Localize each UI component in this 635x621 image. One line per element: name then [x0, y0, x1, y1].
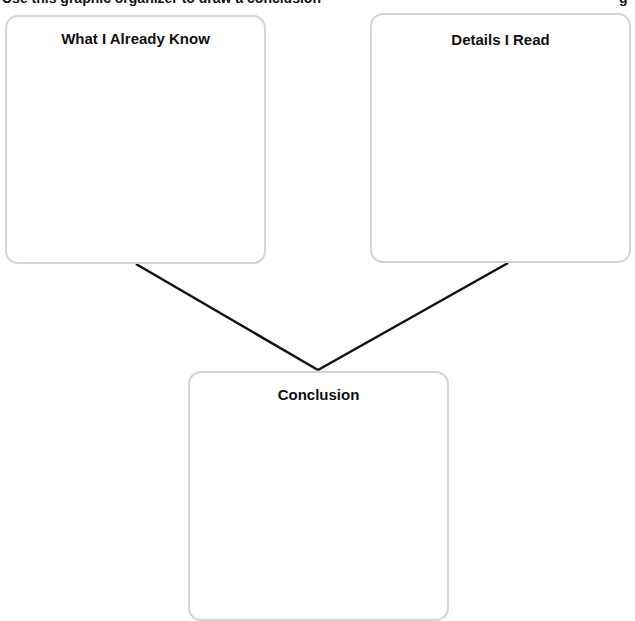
box-title-details-i-read: Details I Read [372, 31, 629, 48]
box-what-i-already-know[interactable]: What I Already Know [5, 15, 266, 264]
box-conclusion[interactable]: Conclusion [188, 371, 449, 621]
box-details-i-read[interactable]: Details I Read [370, 13, 631, 263]
instruction-text: Use this graphic organizer to draw a con… [2, 0, 321, 5]
box-title-conclusion: Conclusion [190, 386, 447, 403]
instruction-tail: g [619, 0, 628, 5]
instruction-main: Use this graphic organizer to draw a con… [2, 0, 321, 6]
connector-right [318, 263, 508, 370]
connector-left [136, 264, 318, 370]
box-title-what-i-already-know: What I Already Know [7, 30, 264, 47]
